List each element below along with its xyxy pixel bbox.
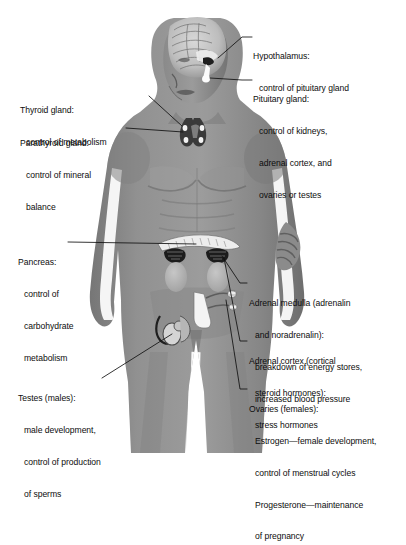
label-ovaries-title: Ovaries (females): (249, 404, 376, 415)
label-pituitary-line-1: adrenal cortex, and (253, 158, 332, 169)
label-pituitary: Pituitary gland: control of kidneys, adr… (253, 73, 332, 221)
label-ovaries-line-2: Progesterone—maintenance (249, 500, 376, 511)
label-ovaries-line-1: control of menstrual cycles (249, 468, 376, 479)
label-pancreas-line-2: metabolism (18, 353, 74, 364)
label-parathyroid-line-1: balance (20, 202, 91, 213)
label-adrenal-cortex-title: Adrenal cortex (cortical (249, 356, 336, 367)
label-testes-line-2: of sperms (18, 489, 101, 500)
label-pituitary-line-0: control of kidneys, (253, 126, 332, 137)
label-testes-title: Testes (males): (18, 393, 101, 404)
label-parathyroid-title: Parathyroid gland: (20, 138, 91, 149)
ovary-right (228, 291, 236, 298)
label-thyroid-title: Thyroid gland: (20, 105, 107, 116)
label-pancreas-line-0: control of (18, 289, 74, 300)
label-testes: Testes (males): male development, contro… (18, 372, 101, 520)
label-pancreas-line-1: carbohydrate (18, 321, 74, 332)
label-ovaries: Ovaries (females): Estrogen—female devel… (249, 383, 376, 545)
label-testes-line-1: control of production (18, 457, 101, 468)
label-parathyroid: Parathyroid gland: control of mineral ba… (20, 117, 91, 234)
label-ovaries-line-3: of pregnancy (249, 531, 376, 542)
label-pituitary-title: Pituitary gland: (253, 94, 332, 105)
label-parathyroid-line-0: control of mineral (20, 170, 91, 181)
label-testes-line-0: male development, (18, 425, 101, 436)
label-adrenal-medulla-title: Adrenal medulla (adrenalin (249, 298, 362, 309)
label-pancreas-title: Pancreas: (18, 257, 74, 268)
label-hypothalamus-title: Hypothalamus: (253, 51, 349, 62)
label-ovaries-line-0: Estrogen—female development, (249, 436, 376, 447)
label-pancreas: Pancreas: control of carbohydrate metabo… (18, 236, 74, 384)
label-pituitary-line-2: ovaries or testes (253, 190, 332, 201)
